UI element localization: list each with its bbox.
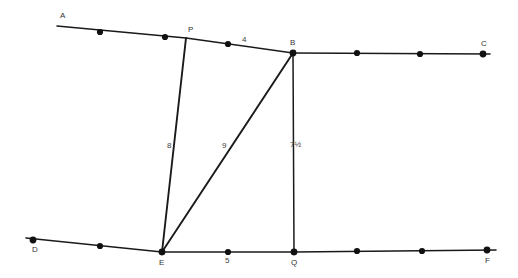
tick-dot-a-1 — [97, 29, 103, 35]
vertex-label-c: C — [481, 39, 487, 48]
vertex-label-f: F — [485, 256, 490, 265]
measure-label-left: 8 — [167, 141, 172, 150]
tick-dot-qf-2 — [419, 248, 425, 254]
geometry-canvas: A P B C D E Q F 4 8 9 7½ 5 — [0, 0, 518, 278]
vertex-label-d: D — [32, 245, 38, 254]
measure-label-diagonal: 9 — [222, 141, 227, 150]
measure-label-right: 7½ — [290, 140, 301, 149]
vertex-dot-c — [480, 51, 487, 58]
tick-dot-a-3 — [225, 41, 231, 47]
measure-label-top: 4 — [242, 35, 247, 44]
vertex-label-e: E — [159, 258, 164, 267]
vertex-label-b: B — [290, 38, 295, 47]
vertex-dot-q — [291, 249, 298, 256]
vertex-dot-d — [30, 237, 37, 244]
vertex-label-q: Q — [291, 258, 297, 267]
tick-dot-de-1 — [97, 243, 103, 249]
tick-dot-bc-2 — [417, 51, 423, 57]
tick-dot-qf-1 — [354, 248, 360, 254]
line-e-to-f — [162, 250, 496, 252]
line-b-to-c — [293, 53, 490, 54]
vertex-dot-e — [159, 249, 166, 256]
vertex-dot-f — [484, 247, 491, 254]
vertex-dot-b — [290, 50, 297, 57]
segment-b-to-q — [293, 53, 294, 252]
vertex-label-p: P — [188, 25, 193, 34]
geometry-diagram: A P B C D E Q F 4 8 9 7½ 5 — [0, 0, 518, 278]
measure-label-bottom: 5 — [225, 256, 230, 265]
tick-dot-bc-1 — [354, 50, 360, 56]
line-a-to-b — [57, 26, 293, 53]
tick-dot-a-2 — [162, 34, 168, 40]
line-d-to-e — [26, 238, 162, 252]
tick-dot-ef-1 — [225, 249, 231, 255]
vertex-label-a: A — [60, 11, 66, 20]
